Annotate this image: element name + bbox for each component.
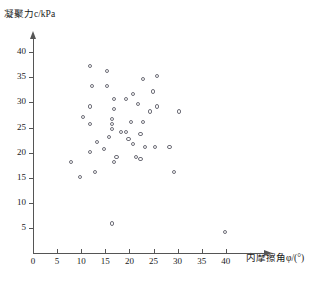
y-tick-25 <box>29 128 34 129</box>
y-tick-label-30: 30 <box>8 96 26 106</box>
data-point <box>167 145 171 149</box>
x-tick-label-15: 15 <box>95 256 115 266</box>
data-point <box>134 155 138 159</box>
data-point <box>131 142 135 146</box>
y-tick-label-20: 20 <box>8 147 26 157</box>
data-point <box>110 221 114 225</box>
data-point <box>107 135 111 139</box>
data-point <box>143 145 147 149</box>
x-tick-30 <box>178 249 179 254</box>
data-point <box>153 145 157 149</box>
data-point <box>177 109 181 113</box>
y-tick-label-5: 5 <box>8 222 26 232</box>
data-point <box>110 127 114 131</box>
x-axis-line <box>33 253 266 254</box>
y-axis-line <box>33 38 34 253</box>
y-tick-5 <box>29 228 34 229</box>
data-point <box>119 130 123 134</box>
x-tick-label-0: 0 <box>23 256 43 266</box>
data-point <box>88 64 92 68</box>
data-point <box>81 115 85 119</box>
data-point <box>138 132 142 136</box>
data-point <box>114 155 118 159</box>
y-tick-15 <box>29 178 34 179</box>
data-point <box>124 97 128 101</box>
y-tick-label-10: 10 <box>8 197 26 207</box>
x-tick-15 <box>105 249 106 254</box>
y-tick-label-35: 35 <box>8 71 26 81</box>
x-tick-10 <box>81 249 82 254</box>
x-tick-20 <box>129 249 130 254</box>
data-point <box>102 147 106 151</box>
data-point <box>129 120 133 124</box>
y-tick-20 <box>29 153 34 154</box>
data-point <box>148 109 152 113</box>
x-tick-label-40: 40 <box>216 256 236 266</box>
y-tick-label-40: 40 <box>8 46 26 56</box>
scatter-chart: 凝聚力c/kPa 内摩擦角φ/(°) 510152025303540 05101… <box>0 0 329 284</box>
data-point <box>126 137 130 141</box>
data-point <box>172 170 176 174</box>
data-point <box>141 120 145 124</box>
x-axis-arrow-icon <box>264 250 272 256</box>
y-tick-35 <box>29 77 34 78</box>
data-point <box>95 140 99 144</box>
data-point <box>112 160 116 164</box>
data-point <box>110 122 114 126</box>
x-tick-35 <box>202 249 203 254</box>
data-point <box>141 77 145 81</box>
y-tick-label-15: 15 <box>8 172 26 182</box>
data-point <box>223 230 227 234</box>
data-point <box>69 160 73 164</box>
x-tick-label-20: 20 <box>119 256 139 266</box>
x-tick-label-5: 5 <box>47 256 67 266</box>
data-point <box>78 175 82 179</box>
data-point <box>88 122 92 126</box>
data-point <box>112 107 116 111</box>
y-tick-40 <box>29 52 34 53</box>
data-point <box>90 84 94 88</box>
x-tick-label-25: 25 <box>144 256 164 266</box>
data-point <box>136 102 140 106</box>
data-point <box>155 104 159 108</box>
data-point <box>88 150 92 154</box>
data-point <box>138 157 142 161</box>
x-tick-label-35: 35 <box>192 256 212 266</box>
y-axis-label: 凝聚力c/kPa <box>4 6 55 20</box>
x-tick-25 <box>154 249 155 254</box>
data-point <box>110 117 114 121</box>
data-point <box>88 104 92 108</box>
y-tick-label-25: 25 <box>8 122 26 132</box>
data-point <box>105 84 109 88</box>
data-point <box>112 97 116 101</box>
y-tick-30 <box>29 102 34 103</box>
x-tick-label-30: 30 <box>168 256 188 266</box>
x-tick-40 <box>226 249 227 254</box>
y-axis-arrow-icon <box>30 31 36 39</box>
data-point <box>151 89 155 93</box>
y-tick-10 <box>29 203 34 204</box>
data-point <box>155 74 159 78</box>
data-point <box>105 69 109 73</box>
data-point <box>93 170 97 174</box>
x-tick-label-10: 10 <box>71 256 91 266</box>
data-point <box>124 130 128 134</box>
x-tick-5 <box>57 249 58 254</box>
data-point <box>131 92 135 96</box>
